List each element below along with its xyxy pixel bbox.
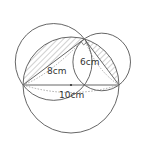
label-leg-8: 8cm <box>47 66 66 76</box>
label-leg-6: 6cm <box>80 57 99 67</box>
center-point <box>70 84 72 86</box>
diagram-canvas: 8cm 6cm 10cm <box>0 0 142 148</box>
geometry-figure: 8cm 6cm 10cm <box>0 0 142 148</box>
label-hypotenuse-10: 10cm <box>59 90 84 100</box>
